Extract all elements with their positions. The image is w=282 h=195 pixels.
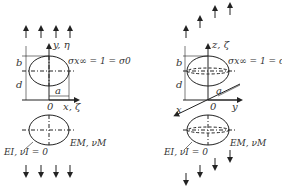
left-dim-b: b <box>16 57 22 68</box>
right-inclusion-label: EI, νI = 0 <box>163 147 208 157</box>
right-axis-x-label: x <box>176 104 182 115</box>
right-origin-label: 0 <box>210 101 217 112</box>
right-dim-d: d <box>176 79 182 90</box>
right-axis-vertical-label: z, ζ <box>211 39 230 50</box>
diagram: y, η x, ζ 0 b d a σx∞ = 1 = σ0 EM, νM EI… <box>0 0 282 195</box>
left-origin-label: 0 <box>47 101 54 112</box>
right-dim-a: a <box>216 85 222 96</box>
top-load-arrows <box>26 28 70 38</box>
left-dim-a: a <box>55 85 61 96</box>
left-axis-vertical-label: y, η <box>52 39 70 50</box>
right-matrix-label: EM, νM <box>229 138 267 148</box>
left-axis-horizontal-label: x, ζ <box>63 101 81 112</box>
right-stress-label: σx∞ = 1 = σ0 <box>228 56 282 66</box>
right-axis-y-label: y <box>231 101 238 112</box>
right-dim-b: b <box>176 57 182 68</box>
left-inclusion-label: EI, νI = 0 <box>3 147 48 157</box>
left-stress-label: σx∞ = 1 = σ0 <box>68 56 131 66</box>
top-load-arrows <box>186 5 230 38</box>
left-matrix-label: EM, νM <box>69 138 107 148</box>
bottom-load-arrows <box>26 165 70 175</box>
left-dim-d: d <box>16 79 22 90</box>
